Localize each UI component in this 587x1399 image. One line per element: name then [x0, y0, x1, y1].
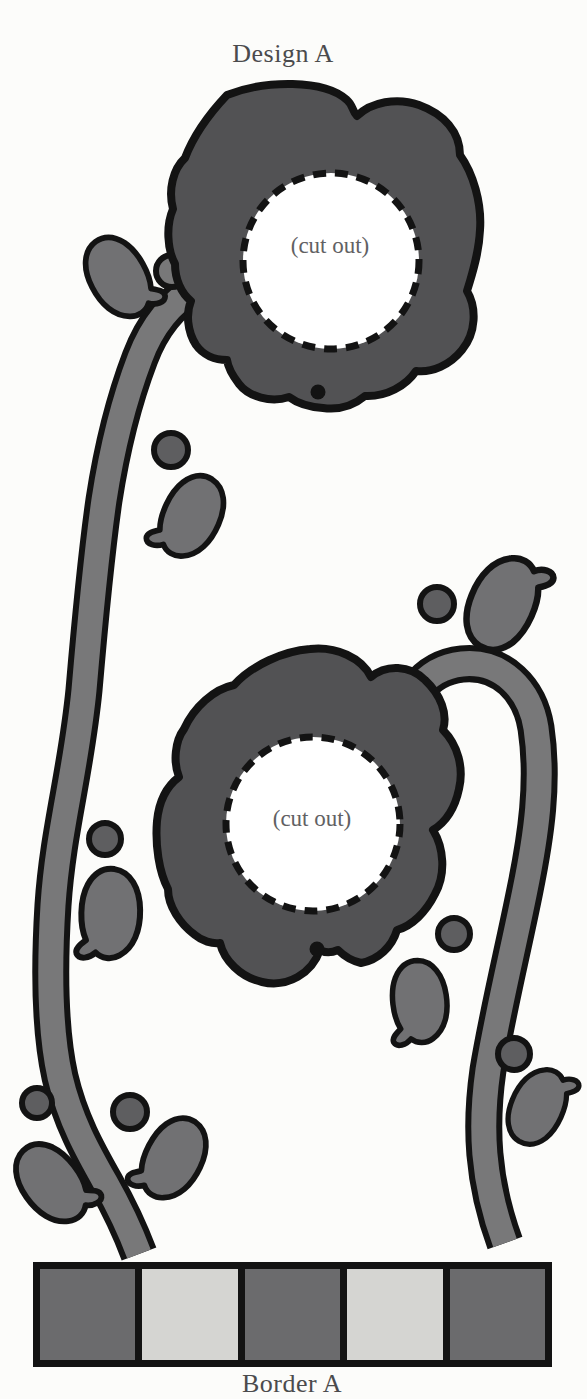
berry-right-below-flower — [438, 918, 470, 950]
border-segment-dark — [40, 1269, 135, 1360]
leaf-lower-right — [497, 1060, 580, 1155]
berry-mid-left — [154, 433, 188, 467]
flower-bottom-dot — [310, 942, 325, 957]
berry-bottom-far-left — [22, 1088, 52, 1118]
border-segment-dark — [450, 1269, 545, 1360]
border-title: Border A — [142, 1371, 442, 1397]
design-canvas: (cut out) (cut out) — [0, 0, 587, 1399]
cutout-label-bottom: (cut out) — [273, 806, 352, 831]
berry-lower-right — [498, 1038, 530, 1070]
berry-bottom-center — [113, 1095, 147, 1129]
flower-top-dot — [311, 385, 326, 400]
border-segment-light — [347, 1269, 442, 1360]
cutout-label-top: (cut out) — [291, 233, 370, 258]
border-segment-light — [142, 1269, 237, 1360]
border-segment-dark — [245, 1269, 340, 1360]
leaf-lower-left — [76, 868, 142, 960]
cutout-circle-top — [243, 173, 419, 349]
leaf-right-below-flower — [385, 958, 451, 1046]
berry-upper-right — [420, 587, 454, 621]
leaf-upper-right — [453, 546, 555, 662]
berry-lower-left — [89, 823, 121, 855]
border-strip — [33, 1262, 552, 1367]
pattern-page: Design A — [0, 0, 587, 1399]
leaf-mid-left — [144, 464, 235, 567]
